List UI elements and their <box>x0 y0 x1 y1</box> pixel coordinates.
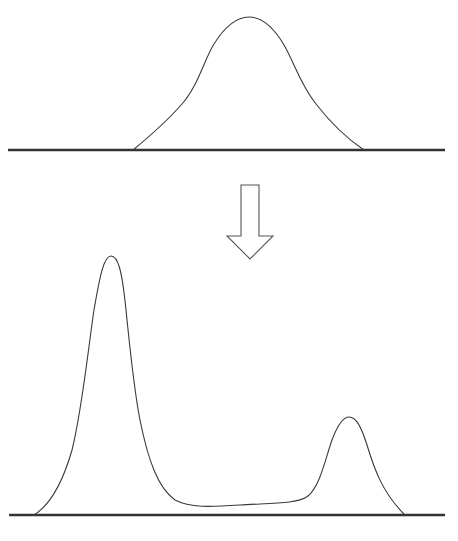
bimodal-curve <box>34 256 404 515</box>
down-arrow-icon <box>227 185 273 259</box>
distribution-transformation-diagram <box>0 0 458 541</box>
top-panel-unimodal <box>8 17 445 150</box>
bottom-panel-bimodal <box>9 256 445 515</box>
unimodal-curve <box>133 17 364 150</box>
